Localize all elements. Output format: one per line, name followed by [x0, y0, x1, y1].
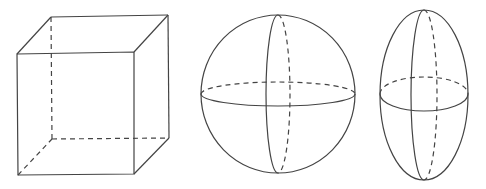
cube-back-right-vertical-edge: [168, 15, 169, 138]
cube-top-back-edge: [51, 15, 168, 17]
ellipsoid-meridian-front: [411, 10, 424, 180]
cube-top-left-edge: [17, 17, 51, 54]
cube-front-face: [17, 52, 134, 175]
cube-hidden-bottom-left-edge: [18, 139, 52, 175]
diagram-canvas: [0, 0, 486, 189]
sphere-meridian-front: [266, 15, 278, 173]
sphere-equator-front: [201, 94, 355, 106]
cube-top-right-edge: [134, 15, 168, 52]
sphere-meridian-back: [278, 15, 290, 173]
sphere-outline: [201, 15, 355, 173]
sphere-equator-back: [201, 82, 355, 94]
cube: [17, 15, 169, 175]
cube-bottom-right-edge: [134, 138, 169, 174]
ellipsoid-meridian-back: [424, 10, 437, 180]
ellipsoid-outline: [380, 10, 468, 180]
ellipsoid: [380, 10, 468, 180]
ellipsoid-equator-front: [380, 94, 468, 111]
cube-hidden-vertical-edge: [51, 17, 52, 139]
ellipsoid-equator-back: [380, 77, 468, 94]
sphere: [201, 15, 355, 173]
cube-hidden-bottom-back-edge: [52, 138, 169, 139]
